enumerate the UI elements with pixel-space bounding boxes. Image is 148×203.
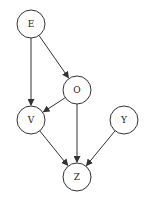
node-y: Y bbox=[110, 106, 138, 134]
node-label: Y bbox=[120, 115, 128, 125]
node-z: Z bbox=[63, 163, 91, 191]
node-label: V bbox=[27, 115, 35, 125]
graph-canvas: EOVYZ bbox=[0, 0, 148, 203]
node-label: Z bbox=[74, 172, 80, 182]
node-e: E bbox=[17, 10, 45, 38]
node-label: O bbox=[73, 85, 80, 95]
edge-v-to-z bbox=[40, 131, 68, 165]
edge-o-to-v bbox=[44, 98, 66, 112]
node-v: V bbox=[17, 106, 45, 134]
edge-y-to-z bbox=[87, 131, 116, 166]
node-o: O bbox=[63, 76, 91, 104]
edge-e-to-o bbox=[39, 35, 68, 77]
node-label: E bbox=[28, 19, 35, 29]
